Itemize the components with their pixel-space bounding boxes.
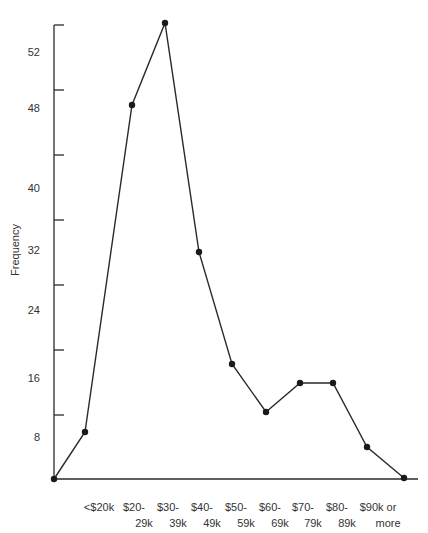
- svg-text:39k: 39k: [169, 517, 187, 529]
- data-series-line: [54, 23, 404, 479]
- x-category-label: $90k ormore: [360, 501, 401, 529]
- y-axis-title: Frequency: [9, 224, 21, 276]
- svg-text:$20-: $20-: [123, 501, 145, 513]
- svg-text:49k: 49k: [203, 517, 221, 529]
- svg-text:$80-: $80-: [326, 501, 348, 513]
- data-point-marker: [82, 429, 88, 435]
- svg-text:29k: 29k: [135, 517, 153, 529]
- data-point-markers: [51, 20, 407, 482]
- data-point-marker: [196, 249, 202, 255]
- svg-text:79k: 79k: [304, 517, 322, 529]
- data-point-marker: [51, 476, 57, 482]
- svg-text:$90k or: $90k or: [360, 501, 397, 513]
- svg-text:$40-: $40-: [191, 501, 213, 513]
- y-tick-label: 40: [28, 182, 40, 194]
- y-tick-label: 52: [28, 46, 40, 58]
- data-point-marker: [162, 20, 168, 26]
- x-category-label: <$20k: [84, 501, 115, 513]
- svg-text:59k: 59k: [237, 517, 255, 529]
- svg-text:$70-: $70-: [292, 501, 314, 513]
- svg-text:more: more: [375, 517, 400, 529]
- y-tick-label: 16: [28, 372, 40, 384]
- x-category-labels: <$20k$20-29k$30-39k$40-49k$50-59k$60-69k…: [84, 501, 401, 529]
- data-point-marker: [263, 409, 269, 415]
- svg-text:$30-: $30-: [157, 501, 179, 513]
- data-point-marker: [330, 380, 336, 386]
- data-point-marker: [229, 361, 235, 367]
- data-point-marker: [401, 475, 407, 481]
- svg-text:<$20k: <$20k: [84, 501, 115, 513]
- data-point-marker: [364, 444, 370, 450]
- frequency-polygon-chart: 8162432404852 Frequency <$20k$20-29k$30-…: [0, 0, 428, 533]
- y-tick-labels: 8162432404852: [28, 46, 40, 443]
- svg-text:89k: 89k: [338, 517, 356, 529]
- svg-text:$50-: $50-: [225, 501, 247, 513]
- y-tick-label: 8: [34, 431, 40, 443]
- x-category-label: $50-59k: [225, 501, 255, 529]
- x-category-label: $80-89k: [326, 501, 356, 529]
- svg-text:$60-: $60-: [259, 501, 281, 513]
- x-category-label: $70-79k: [292, 501, 322, 529]
- x-category-label: $20-29k: [123, 501, 153, 529]
- data-point-marker: [129, 102, 135, 108]
- y-tick-label: 48: [28, 102, 40, 114]
- y-tick-label: 32: [28, 244, 40, 256]
- x-category-label: $40-49k: [191, 501, 221, 529]
- data-point-marker: [297, 380, 303, 386]
- polygon-line: [54, 23, 404, 479]
- x-category-label: $30-39k: [157, 501, 187, 529]
- y-axis: [54, 25, 64, 479]
- y-tick-label: 24: [28, 304, 40, 316]
- svg-text:69k: 69k: [271, 517, 289, 529]
- x-category-label: $60-69k: [259, 501, 289, 529]
